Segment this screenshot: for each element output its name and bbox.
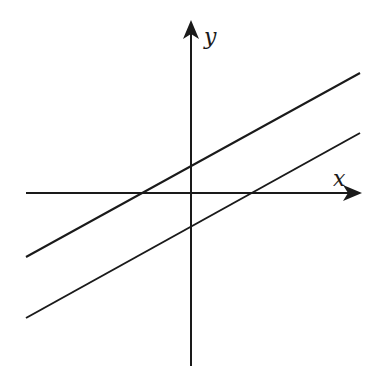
coordinate-diagram: y x [0,0,391,367]
y-axis-label: y [204,26,216,48]
upper-line [26,73,360,257]
x-axis-label: x [333,168,345,190]
lower-line [26,133,360,318]
